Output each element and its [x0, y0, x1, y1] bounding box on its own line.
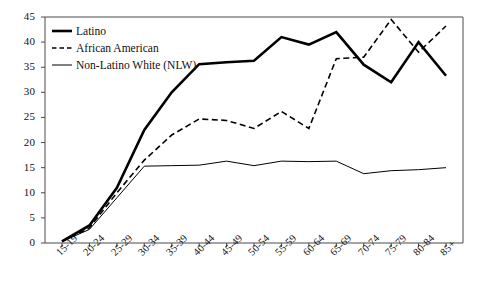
legend-line-samples: [52, 31, 72, 65]
chart-plot-area: [0, 0, 484, 301]
legend-item-latino: Latino: [76, 25, 106, 37]
y-tick-label: 0: [9, 237, 35, 248]
chart-figure: 051015202530354045 15-1920-2425-2930-343…: [0, 0, 484, 301]
y-tick-label: 20: [9, 137, 35, 148]
series-line-non-latino-white-nlw: [62, 161, 446, 241]
y-tick-label: 15: [9, 162, 35, 173]
y-tick-label: 45: [9, 11, 35, 22]
y-tick-label: 10: [9, 187, 35, 198]
y-tick-label: 25: [9, 111, 35, 122]
y-tick-label: 30: [9, 86, 35, 97]
legend-item-non-latino-white: Non-Latino White (NLW): [76, 59, 196, 71]
y-tick-label: 5: [9, 212, 35, 223]
legend-item-african-american: African American: [76, 42, 159, 54]
y-tick-label: 40: [9, 36, 35, 47]
y-tick-label: 35: [9, 61, 35, 72]
